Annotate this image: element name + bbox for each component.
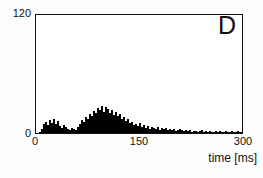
histogram-bars [36, 15, 242, 133]
figure-panel-d: 120 0 D 0 150 300 time [ms] [0, 0, 263, 178]
x-axis-tick-label-150: 150 [125, 136, 153, 147]
panel-label-d: D [218, 13, 236, 38]
x-axis-tick-label-300: 300 [229, 136, 257, 147]
y-axis-tick-label-top: 120 [0, 8, 31, 19]
plot-area [36, 15, 242, 133]
y-axis-tick-label-bottom: 0 [0, 128, 31, 139]
x-axis-title: time [ms] [208, 152, 257, 164]
plot-frame: D [35, 14, 243, 134]
x-axis-tick-label-0: 0 [29, 136, 41, 147]
